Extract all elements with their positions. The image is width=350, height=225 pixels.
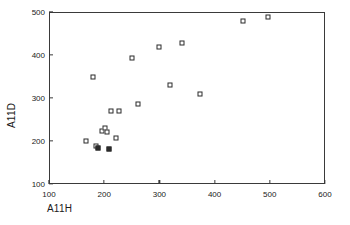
- data-point: [91, 75, 96, 80]
- data-point: [104, 129, 109, 134]
- data-point: [265, 15, 270, 20]
- x-axis-tick-label: 100: [42, 190, 55, 199]
- data-point: [107, 147, 112, 152]
- x-axis-tick: [104, 180, 105, 184]
- x-axis-tick-label: 600: [318, 190, 331, 199]
- y-axis-tick: [49, 140, 53, 141]
- data-point: [241, 19, 246, 24]
- data-point: [198, 91, 203, 96]
- data-point: [168, 82, 173, 87]
- x-axis-title: A11H: [47, 203, 72, 214]
- data-point: [96, 145, 101, 150]
- y-axis-tick: [49, 11, 53, 12]
- x-axis-tick: [214, 180, 215, 184]
- data-point: [180, 41, 185, 46]
- plot-area: [49, 12, 325, 184]
- data-point: [83, 139, 88, 144]
- data-point: [108, 108, 113, 113]
- y-axis-tick: [49, 97, 53, 98]
- x-axis-tick-label: 200: [98, 190, 111, 199]
- y-axis-tick-label: 500: [23, 8, 45, 17]
- x-axis-tick-label: 300: [153, 190, 166, 199]
- y-axis-tick-label: 300: [23, 94, 45, 103]
- x-axis-tick-label: 400: [208, 190, 221, 199]
- y-axis-tick-label: 200: [23, 137, 45, 146]
- scatter-plot-figure: 100200300400500600100200300400500 A11H A…: [0, 0, 350, 225]
- data-point: [113, 135, 118, 140]
- y-axis-title: A11D: [6, 103, 17, 128]
- y-axis-tick-label: 400: [23, 51, 45, 60]
- x-axis-tick-label: 500: [263, 190, 276, 199]
- x-axis-tick: [269, 180, 270, 184]
- x-axis-tick: [159, 180, 160, 184]
- x-axis-tick: [324, 180, 325, 184]
- y-axis-tick: [49, 183, 53, 184]
- data-point: [129, 56, 134, 61]
- y-axis-tick-label: 100: [23, 180, 45, 189]
- data-point: [117, 108, 122, 113]
- data-point: [135, 102, 140, 107]
- data-point: [156, 45, 161, 50]
- y-axis-tick: [49, 54, 53, 55]
